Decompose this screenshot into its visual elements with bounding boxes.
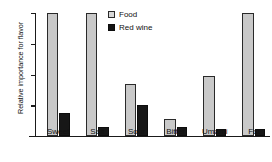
x-axis-line (29, 136, 270, 137)
bar-group (47, 13, 70, 136)
bar-chart-figure: Relative importance for flavor SweetSalt… (0, 0, 272, 162)
y-axis-tick (31, 13, 36, 14)
legend-label-red-wine: Red wine (119, 23, 152, 32)
y-axis-tick (31, 105, 36, 106)
legend-swatch-food-icon (108, 11, 115, 18)
legend-item-red-wine: Red wine (108, 22, 184, 33)
legend-label-food: Food (119, 10, 137, 19)
legend-swatch-red-wine-icon (108, 24, 115, 31)
y-axis-tick (31, 75, 36, 76)
y-axis-tick (31, 44, 36, 45)
x-axis-label-fat: Fat (224, 127, 272, 136)
bar-group (86, 13, 109, 136)
y-axis-title: Relative importance for flavor (14, 0, 28, 138)
legend-item-food: Food (108, 9, 184, 20)
bar-group (203, 13, 226, 136)
chart-legend: Food Red wine (108, 9, 184, 35)
bar-fat-food (242, 13, 254, 136)
bar-sweet-food (47, 13, 59, 136)
bar-salt-food (86, 13, 98, 136)
bar-group (242, 13, 265, 136)
